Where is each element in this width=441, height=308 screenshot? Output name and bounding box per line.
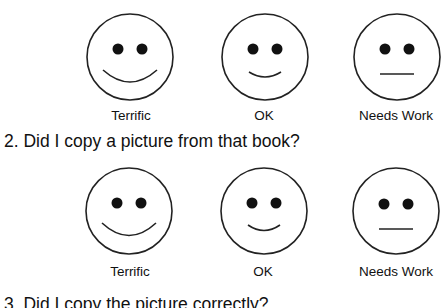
option-label-ok: OK (254, 108, 274, 123)
option-label-needs-work: Needs Work (359, 108, 433, 123)
option-label-terrific: Terrific (111, 108, 151, 123)
option-label-ok: OK (253, 264, 273, 279)
needs-work-face-icon[interactable] (351, 166, 441, 256)
question-3-text: 3. Did I copy the picture correctly? (4, 294, 269, 308)
self-assessment-worksheet: Terrific OK Needs Work 2. Did I copy a p… (0, 0, 441, 308)
option-label-needs-work: Needs Work (359, 264, 433, 279)
terrific-face-icon[interactable] (85, 12, 175, 102)
option-label-terrific: Terrific (110, 264, 150, 279)
needs-work-face-icon[interactable] (352, 12, 441, 102)
ok-face-icon[interactable] (220, 12, 310, 102)
ok-face-icon[interactable] (219, 166, 309, 256)
terrific-face-icon[interactable] (84, 166, 174, 256)
question-2-text: 2. Did I copy a picture from that book? (4, 131, 300, 152)
